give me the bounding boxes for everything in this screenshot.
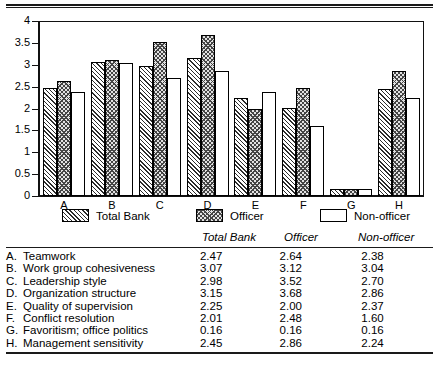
plot-right-border: [423, 21, 424, 196]
bar-officer-e: [248, 109, 262, 197]
top-divider: [6, 4, 433, 8]
table-row-letter: F.: [6, 312, 23, 324]
table-cell-label: D.Organization structure: [6, 287, 196, 299]
table-cell-officer: 3.68: [272, 287, 352, 299]
y-tick-label: 2.5: [0, 81, 30, 92]
bar-group: [186, 21, 230, 196]
table-cell-non-officer: 2.24: [351, 337, 433, 349]
top-divider-thin: [6, 7, 433, 8]
y-tick-mark: [32, 87, 39, 88]
table-row-letter: G.: [6, 324, 23, 336]
table-cell-non-officer: 0.16: [351, 324, 433, 336]
bar-non-officer-e: [262, 92, 276, 196]
table-header-row: Total Bank Officer Non-officer: [6, 231, 433, 247]
y-tick-mark: [32, 109, 39, 110]
bar-group: [377, 21, 421, 196]
bar-officer-a: [57, 81, 71, 197]
legend-item-total-bank: Total Bank: [62, 209, 150, 222]
bar-non-officer-c: [167, 78, 181, 196]
table-row-letter: A.: [6, 250, 23, 262]
legend-item-officer: Officer: [196, 209, 264, 222]
bar-total-bank-f: [282, 108, 296, 196]
table-row: H.Management sensitivity2.452.862.24: [6, 337, 433, 349]
y-tick-label-text: 4: [4, 15, 30, 26]
bar-non-officer-g: [358, 189, 372, 196]
y-tick-label-text: 2.5: [4, 81, 30, 92]
bar-officer-c: [153, 42, 167, 196]
table-row-name: Work group cohesiveness: [23, 262, 196, 274]
table-cell-total-bank: 2.47: [196, 250, 272, 262]
table-cell-officer: 3.12: [272, 262, 352, 274]
bar-non-officer-d: [215, 71, 229, 196]
table-row: E.Quality of supervision2.252.002.37: [6, 300, 433, 312]
y-tick-label-text: 0.5: [4, 168, 30, 179]
legend-swatch-non-officer: [320, 209, 347, 222]
bar-officer-f: [296, 88, 310, 197]
bar-total-bank-b: [91, 62, 105, 196]
table-row-name: Conflict resolution: [23, 312, 196, 324]
table-row-letter: B.: [6, 262, 23, 274]
bar-total-bank-e: [234, 98, 248, 196]
legend-label: Non-officer: [354, 210, 410, 222]
bar-total-bank-g: [330, 189, 344, 196]
bar-total-bank-c: [139, 66, 153, 196]
table-header-non-officer: Non-officer: [358, 231, 432, 244]
table-cell-non-officer: 3.04: [351, 262, 433, 274]
table-cell-officer: 2.48: [272, 312, 352, 324]
y-tick-mark: [32, 174, 39, 175]
table-row-name: Favoritism; office politics: [23, 324, 196, 336]
legend-swatch-officer: [196, 209, 223, 222]
table-row-letter: C.: [6, 275, 23, 287]
table-row: B.Work group cohesiveness3.073.123.04: [6, 262, 433, 274]
bar-total-bank-a: [43, 88, 57, 196]
bar-officer-d: [201, 35, 215, 196]
bar-group: [281, 21, 325, 196]
y-tick-label-text: 3: [4, 59, 30, 70]
table-header-officer: Officer: [276, 231, 358, 244]
table-cell-label: C.Leadership style: [6, 275, 196, 287]
table-cell-label: H.Management sensitivity: [6, 337, 196, 349]
table-cell-officer: 3.52: [272, 275, 352, 287]
y-tick-mark: [32, 196, 39, 197]
bar-group: [138, 21, 182, 196]
table-cell-non-officer: 2.38: [351, 250, 433, 262]
table-row-name: Management sensitivity: [23, 337, 196, 349]
table-cell-label: E.Quality of supervision: [6, 300, 196, 312]
legend-item-non-officer: Non-officer: [320, 209, 410, 222]
table-row: A.Teamwork2.472.642.38: [6, 250, 433, 262]
plot-area: [40, 21, 423, 196]
y-tick-label-text: 0: [4, 190, 30, 201]
table-row-letter: E.: [6, 300, 23, 312]
table-cell-total-bank: 3.07: [196, 262, 272, 274]
bar-total-bank-h: [378, 89, 392, 196]
y-tick-mark: [32, 21, 39, 22]
table-bottom-rule: [6, 352, 433, 354]
bar-group: [90, 21, 134, 196]
table-cell-officer: 2.86: [272, 337, 352, 349]
table-cell-total-bank: 2.01: [196, 312, 272, 324]
table-cell-total-bank: 2.98: [196, 275, 272, 287]
y-tick-mark: [32, 130, 39, 131]
y-tick-label: 1: [0, 146, 30, 157]
bar-group: [42, 21, 86, 196]
bar-non-officer-a: [71, 92, 85, 196]
bar-non-officer-b: [119, 63, 133, 196]
bar-non-officer-h: [406, 98, 420, 196]
legend-label: Total Bank: [96, 210, 150, 222]
table-row-name: Leadership style: [23, 275, 196, 287]
table-cell-officer: 2.00: [272, 300, 352, 312]
bar-total-bank-d: [187, 58, 201, 196]
y-tick-mark: [32, 152, 39, 153]
y-tick-label: 3: [0, 59, 30, 70]
table-row: D.Organization structure3.153.682.86: [6, 287, 433, 299]
table-cell-total-bank: 2.45: [196, 337, 272, 349]
y-tick-label: 0: [0, 190, 30, 201]
data-table: Total Bank Officer Non-officer A.Teamwor…: [6, 231, 433, 354]
table-header-blank: [6, 231, 202, 244]
table-cell-non-officer: 2.70: [351, 275, 433, 287]
chart-legend: Total BankOfficerNon-officer: [0, 205, 439, 227]
table-cell-label: G.Favoritism; office politics: [6, 324, 196, 336]
table-row-letter: D.: [6, 287, 23, 299]
y-tick-label-text: 2: [4, 103, 30, 114]
bar-chart: 00.511.522.533.54 ABCDEFGH: [0, 14, 439, 200]
